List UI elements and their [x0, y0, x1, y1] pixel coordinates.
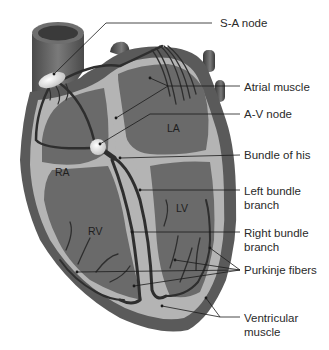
- callout-text: Purkinje fibers: [244, 264, 317, 276]
- callout-text: muscle: [244, 326, 280, 338]
- callout-bundle-of-his: Bundle of his: [244, 148, 311, 162]
- callout-left-bundle-branch: Left bundle branch: [244, 184, 301, 212]
- chamber-label-ra: RA: [55, 166, 70, 178]
- callout-text: A-V node: [244, 108, 292, 120]
- callout-text: Left bundle: [244, 185, 301, 197]
- callout-text: S-A node: [220, 17, 267, 29]
- callout-sa-node: S-A node: [220, 16, 267, 30]
- callout-av-node: A-V node: [244, 107, 292, 121]
- callout-text: Bundle of his: [244, 149, 311, 161]
- chamber-label-rv: RV: [88, 225, 102, 237]
- callout-ventricular-muscle: Ventricular muscle: [244, 311, 298, 339]
- chamber-label-lv: LV: [176, 202, 188, 214]
- chamber-label-la: LA: [167, 122, 180, 134]
- callout-text: Atrial muscle: [244, 81, 310, 93]
- callout-text: Right bundle: [244, 227, 309, 239]
- callout-text: branch: [244, 199, 279, 211]
- callout-text: Ventricular: [244, 312, 298, 324]
- heart-illustration: [0, 0, 329, 350]
- callout-text: branch: [244, 241, 279, 253]
- callout-purkinje-fibers: Purkinje fibers: [244, 263, 317, 277]
- heart-conduction-diagram: RA LA RV LV S-A node Atrial muscle A-V n…: [0, 0, 329, 350]
- callout-atrial-muscle: Atrial muscle: [244, 80, 310, 94]
- callout-right-bundle-branch: Right bundle branch: [244, 226, 309, 254]
